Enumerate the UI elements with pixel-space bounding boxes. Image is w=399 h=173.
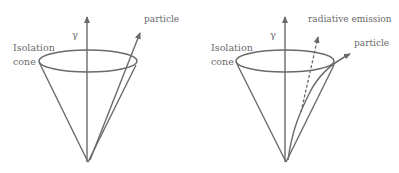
photon-label: γ <box>270 29 276 40</box>
isolation-cone-label-line2: cone <box>13 56 36 67</box>
photon-label: γ <box>72 29 78 40</box>
cone-left-edge <box>236 62 286 162</box>
left-diagram: γ particle Isolation cone <box>13 14 179 162</box>
cone-opening-ellipse <box>39 50 137 72</box>
particle-label: particle <box>144 14 179 24</box>
isolation-cone-diagram: γ particle Isolation cone γ radiative em… <box>0 0 399 173</box>
isolation-cone-label-line1: Isolation <box>211 42 253 53</box>
right-diagram: γ radiative emission particle Isolation … <box>211 14 392 162</box>
isolation-cone-label-line2: cone <box>211 56 234 67</box>
radiative-emission-label: radiative emission <box>308 14 392 24</box>
cone-right-edge <box>286 65 334 162</box>
radiative-emission-arrow <box>301 37 318 112</box>
particle-label: particle <box>354 38 389 48</box>
particle-curved-arrow <box>288 54 350 160</box>
isolation-cone-label-line1: Isolation <box>13 42 55 53</box>
cone-left-edge <box>39 62 88 162</box>
